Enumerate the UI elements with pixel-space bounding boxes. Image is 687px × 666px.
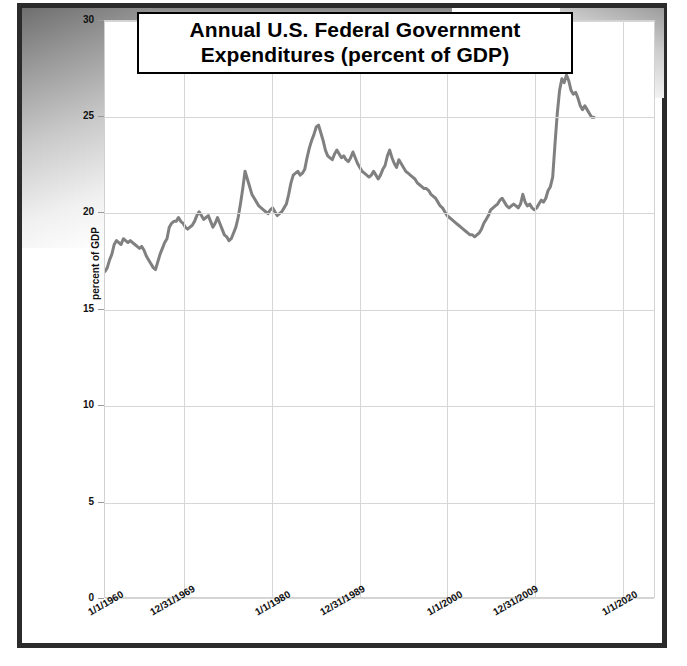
y-tick-5: 5 <box>88 497 94 507</box>
chart-title-line-2: Expenditures (percent of GDP) <box>145 42 565 67</box>
gridline-y-15 <box>105 310 654 311</box>
gridline-x-1989 <box>360 21 361 597</box>
gridline-y-20 <box>105 213 654 214</box>
gridline-y-0 <box>105 598 654 599</box>
y-tick-20: 20 <box>83 207 94 217</box>
y-axis-title: percent of GDP <box>90 219 101 309</box>
gridline-x-2000 <box>447 21 448 597</box>
chart-title-line-1: Annual U.S. Federal Government <box>145 17 565 42</box>
gridline-x-2020 <box>623 21 624 597</box>
gridline-x-2009 <box>535 21 536 597</box>
chart-figure: 30 25 20 15 10 5 0 percent of GDP Ann <box>0 0 687 666</box>
plot-area <box>104 20 655 598</box>
chart-title: Annual U.S. Federal Government Expenditu… <box>137 12 573 74</box>
gridline-y-10 <box>105 406 654 407</box>
y-tick-10: 10 <box>83 400 94 410</box>
gridline-x-1969 <box>184 21 185 597</box>
y-tick-30: 30 <box>83 15 94 25</box>
gridline-x-1980 <box>272 21 273 597</box>
y-tick-0: 0 <box>88 593 94 603</box>
gridline-y-5 <box>105 503 654 504</box>
y-axis-tick-labels: 30 25 20 15 10 5 0 <box>62 0 94 666</box>
gridline-y-25 <box>105 117 654 118</box>
y-tick-25: 25 <box>83 111 94 121</box>
